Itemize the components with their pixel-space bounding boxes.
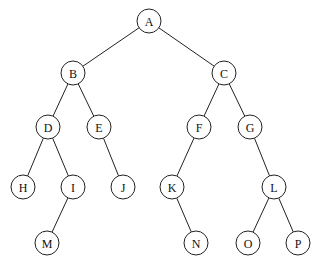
node-k: K (160, 175, 184, 199)
node-e: E (87, 115, 111, 139)
edge-a-b (83, 28, 139, 66)
edge-i-m (52, 198, 68, 232)
node-label: O (244, 237, 253, 251)
edge-l-p (279, 198, 294, 232)
node-label: K (168, 181, 177, 195)
node-j: J (111, 175, 135, 199)
edge-b-e (78, 84, 94, 116)
node-p: P (286, 231, 310, 255)
node-label: I (71, 181, 75, 195)
edge-c-f (204, 84, 219, 116)
edge-a-c (159, 28, 214, 66)
edge-k-n (177, 198, 192, 232)
node-c: C (212, 61, 236, 85)
node-label: N (192, 237, 201, 251)
node-label: P (295, 237, 302, 251)
binary-tree-diagram: ABCDEFGHIJKLMNOP (0, 0, 314, 262)
node-g: G (238, 115, 262, 139)
node-label: E (95, 121, 102, 135)
node-a: A (137, 9, 161, 33)
edge-b-d (53, 84, 68, 116)
node-f: F (187, 115, 211, 139)
node-b: B (61, 61, 85, 85)
node-label: M (42, 237, 53, 251)
node-label: G (246, 121, 255, 135)
node-label: J (121, 181, 126, 195)
edge-e-j (103, 138, 118, 176)
node-h: H (11, 175, 35, 199)
edge-c-g (229, 84, 245, 116)
edge-g-l (254, 138, 269, 176)
nodes-group: ABCDEFGHIJKLMNOP (11, 9, 310, 255)
edge-d-i (53, 138, 69, 176)
node-n: N (184, 231, 208, 255)
edge-f-k (177, 138, 194, 176)
node-label: L (270, 181, 277, 195)
node-label: H (19, 181, 28, 195)
node-label: F (196, 121, 203, 135)
node-d: D (36, 115, 60, 139)
edge-d-h (28, 138, 44, 176)
node-o: O (236, 231, 260, 255)
node-label: C (220, 67, 228, 81)
node-l: L (262, 175, 286, 199)
node-i: I (61, 175, 85, 199)
node-label: B (69, 67, 77, 81)
node-label: A (145, 15, 154, 29)
node-m: M (35, 231, 59, 255)
node-label: D (44, 121, 53, 135)
edge-l-o (253, 198, 269, 232)
